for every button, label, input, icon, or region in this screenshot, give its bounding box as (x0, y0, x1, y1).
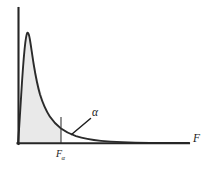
x-axis-label-f: F (192, 132, 201, 144)
f-distribution-figure: α F F α (0, 0, 208, 170)
f-distribution-chart: α F F α (0, 0, 208, 170)
tail-area-alpha-label: α (92, 106, 99, 118)
alpha-leader-line (72, 119, 91, 135)
critical-value-subscript: α (62, 154, 66, 161)
